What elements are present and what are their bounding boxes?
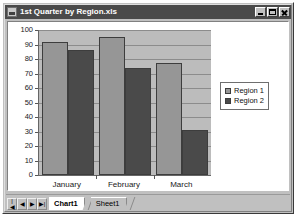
bar-january-region-2[interactable] xyxy=(68,50,94,175)
y-axis-tick xyxy=(35,88,38,89)
bar-march-region-1[interactable] xyxy=(156,63,182,175)
chart-canvas[interactable]: 1009080706050403020100 JanuaryFebruaryMa… xyxy=(8,22,288,190)
sheet-nav-first-button[interactable]: |◀ xyxy=(7,198,17,210)
window-controls xyxy=(255,7,290,17)
y-axis-tick xyxy=(35,175,38,176)
y-axis-tick xyxy=(35,161,38,162)
y-axis-tick xyxy=(35,74,38,75)
sheet-nav-previous-button[interactable]: ◀ xyxy=(17,198,27,210)
y-axis-label: 80 xyxy=(25,55,33,63)
sheet-tab-chart1[interactable]: Chart1 xyxy=(49,197,85,210)
bar-february-region-2[interactable] xyxy=(125,68,151,175)
x-axis-label: February xyxy=(95,180,152,189)
spreadsheet-icon xyxy=(7,7,17,17)
y-axis-label: 70 xyxy=(25,70,33,78)
sheet-nav-next-button[interactable]: ▶ xyxy=(27,198,37,210)
title-bar[interactable]: 1st Quarter by Region.xls xyxy=(5,5,291,19)
legend-swatch-region-1 xyxy=(225,88,231,94)
y-axis-tick xyxy=(35,146,38,147)
y-axis-label: 90 xyxy=(25,41,33,49)
y-axis-tick xyxy=(35,103,38,104)
close-button[interactable] xyxy=(279,7,290,17)
window-title: 1st Quarter by Region.xls xyxy=(20,7,255,17)
y-axis-tick xyxy=(35,132,38,133)
bar-january-region-1[interactable] xyxy=(42,42,68,175)
bar-march-region-2[interactable] xyxy=(182,130,208,175)
application-window: 1st Quarter by Region.xls 10090807060504… xyxy=(2,2,294,214)
y-axis-tick xyxy=(35,45,38,46)
bar-february-region-1[interactable] xyxy=(99,37,125,175)
bar-groups xyxy=(39,30,211,175)
legend-item-region-2[interactable]: Region 2 xyxy=(225,96,264,106)
y-axis-label: 0 xyxy=(29,171,33,179)
legend-label-region-1: Region 1 xyxy=(234,86,264,96)
sheet-nav-previous-icon: ◀ xyxy=(20,201,25,207)
sheet-nav-first-icon: |◀ xyxy=(10,198,15,210)
legend-swatch-region-2 xyxy=(225,98,231,104)
legend-label-region-2: Region 2 xyxy=(234,96,264,106)
x-axis-tick xyxy=(154,175,155,179)
y-axis-label: 20 xyxy=(25,142,33,150)
chart-legend[interactable]: Region 1 Region 2 xyxy=(220,82,269,110)
y-axis-tick xyxy=(35,30,38,31)
y-axis-tick xyxy=(35,117,38,118)
x-axis-tick xyxy=(96,175,97,179)
plot-area[interactable]: 1009080706050403020100 xyxy=(38,30,211,176)
y-axis-label: 100 xyxy=(20,26,33,34)
bar-group xyxy=(154,30,211,175)
y-axis-tick xyxy=(35,59,38,60)
sheet-nav-next-icon: ▶ xyxy=(30,201,35,207)
y-axis-label: 40 xyxy=(25,113,33,121)
x-axis-label: January xyxy=(38,180,95,189)
y-axis-label: 60 xyxy=(25,84,33,92)
sheet-tab-sheet1[interactable]: Sheet1 xyxy=(91,197,127,210)
legend-item-region-1[interactable]: Region 1 xyxy=(225,86,264,96)
x-axis-labels: JanuaryFebruaryMarch xyxy=(38,180,210,189)
sheet-nav-last-icon: ▶| xyxy=(39,201,46,207)
y-axis-label: 50 xyxy=(25,99,33,107)
sheet-tabs: Chart1Sheet1 xyxy=(49,197,133,210)
y-axis-label: 30 xyxy=(25,128,33,136)
bar-group xyxy=(96,30,153,175)
bar-group xyxy=(39,30,96,175)
x-axis-label: March xyxy=(153,180,210,189)
sheet-navigation-buttons: |◀◀▶▶| xyxy=(7,197,49,210)
sheet-nav-last-button[interactable]: ▶| xyxy=(37,198,47,210)
minimize-button[interactable] xyxy=(255,7,266,17)
sheet-tab-bar: |◀◀▶▶| Chart1Sheet1 xyxy=(6,194,290,210)
y-axis-label: 10 xyxy=(25,157,33,165)
chart-client-area[interactable]: 1009080706050403020100 JanuaryFebruaryMa… xyxy=(7,21,289,191)
maximize-button[interactable] xyxy=(267,7,278,17)
